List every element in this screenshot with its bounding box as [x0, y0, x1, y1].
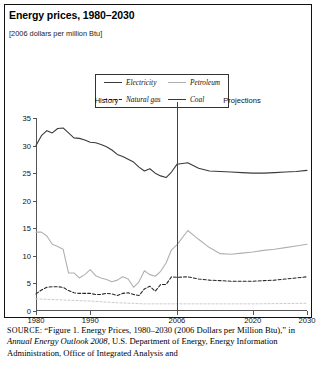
legend-item-electricity: Electricity: [104, 78, 156, 87]
series-line-electricity: [36, 128, 307, 178]
y-axis-tick-mark: [33, 146, 37, 147]
series-line-natural-gas: [36, 277, 307, 296]
region-label-history: History: [95, 96, 119, 105]
source-note: SOURCE: “Figure 1. Energy Prices, 1980–2…: [7, 325, 309, 359]
legend-item-petroleum: Petroleum: [168, 78, 220, 87]
source-label: SOURCE: [7, 326, 40, 335]
legend-swatch-line: [104, 82, 122, 83]
page-title: Energy prices, 1980–2030: [9, 9, 134, 21]
legend-swatch-line: [168, 99, 186, 100]
y-axis-tick-mark: [33, 173, 37, 174]
chart-series-svg: [36, 118, 307, 311]
energy-prices-figure: Energy prices, 1980–2030 [2006 dollars p…: [0, 0, 316, 371]
x-axis-tick-mark: [253, 311, 254, 315]
legend-label: Petroleum: [190, 78, 220, 87]
y-axis-tick-mark: [33, 256, 37, 257]
series-line-petroleum: [36, 230, 307, 287]
legend-label: Natural gas: [126, 95, 161, 104]
legend-item-coal: Coal: [168, 95, 204, 104]
history-projections-divider: [177, 102, 178, 311]
y-axis-tick-mark: [33, 228, 37, 229]
legend-label: Electricity: [126, 78, 156, 87]
y-axis-tick-mark: [33, 201, 37, 202]
x-axis-tick-mark: [36, 311, 37, 315]
figure-subtitle: [2006 dollars per million Btu]: [9, 29, 102, 38]
x-axis-tick-mark: [307, 311, 308, 315]
source-publication: Annual Energy Outlook 2008: [7, 336, 108, 346]
series-line-coal: [36, 299, 307, 304]
y-axis-tick-mark: [33, 283, 37, 284]
x-axis-tick-label: 2006: [168, 316, 185, 325]
x-axis-tick-label: 2030: [299, 316, 316, 325]
x-axis-tick-label: 1980: [28, 316, 45, 325]
legend-label: Coal: [190, 95, 204, 104]
legend-swatch-line: [168, 82, 186, 83]
x-axis-tick-mark: [177, 311, 178, 315]
region-label-projections: Projections: [223, 96, 261, 105]
x-axis-tick-mark: [90, 311, 91, 315]
source-text-1: : “Figure 1. Energy Prices, 1980–2030 (2…: [40, 325, 295, 335]
x-axis-tick-label: 2020: [244, 316, 261, 325]
chart-plot-area: 0510152025303519801990200620202030Histor…: [36, 118, 307, 311]
x-axis-tick-label: 1990: [82, 316, 99, 325]
y-axis-tick-mark: [33, 118, 37, 119]
